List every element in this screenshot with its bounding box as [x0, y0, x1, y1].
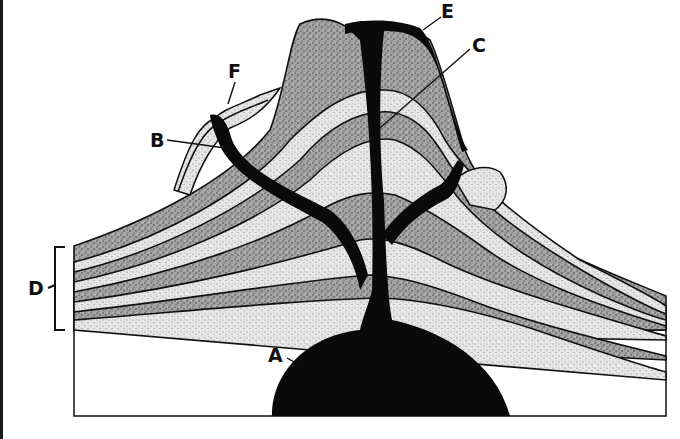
volcano-diagram: E C F B D A [0, 0, 680, 439]
label-f: F [228, 60, 241, 82]
label-b: B [150, 129, 164, 151]
label-a: A [268, 344, 283, 366]
leader-e [423, 17, 441, 30]
bracket-d [48, 247, 65, 330]
leader-f [228, 82, 235, 104]
label-e: E [441, 0, 454, 22]
label-d: D [28, 277, 44, 299]
label-c: C [472, 34, 486, 56]
